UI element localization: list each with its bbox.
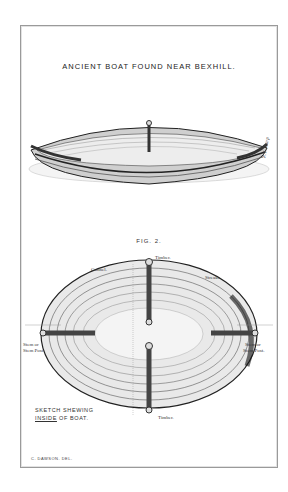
label-stem-right-2: Stem Post. [243, 348, 264, 353]
label-stem-left-1: Stem or [23, 342, 39, 347]
label-timber-top: Timber. [155, 255, 171, 260]
label-stem-left-2: Stem Post. [23, 348, 44, 353]
fig2-label: FIG. 2. [21, 238, 277, 244]
sketch-caption: SKETCH SHEWING INSIDE OF BOAT. [35, 406, 94, 422]
caption-line2: INSIDE OF BOAT. [35, 414, 94, 422]
label-timber-bottom: Timber. [158, 415, 174, 420]
boat-illustrations [21, 26, 277, 467]
label-streaks: Streaks. [205, 275, 221, 280]
label-gunnel: Gunnel. [91, 267, 107, 272]
plate: ANCIENT BOAT FOUND NEAR BEXHILL. FIG. I [20, 25, 278, 468]
caption-rest: OF BOAT. [57, 415, 89, 421]
caption-line1: SKETCH SHEWING [35, 406, 94, 414]
label-stem-right-1: Stem or [245, 342, 261, 347]
caption-underlined: INSIDE [35, 415, 57, 421]
fig1-boat [29, 121, 269, 185]
draughtsman-credit: C. DAWSON. DEL. [31, 456, 73, 461]
fig2-boat [25, 259, 273, 417]
